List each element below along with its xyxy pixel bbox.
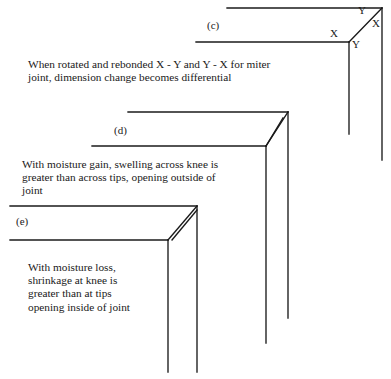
- dimension-label-y-inner-bottom: Y: [352, 38, 360, 50]
- caption-line: opening inside of joint: [28, 301, 130, 314]
- caption-line: When rotated and rebonded X - Y and Y - …: [28, 58, 270, 71]
- caption-line: joint, dimension change becomes differen…: [28, 71, 270, 84]
- panel-caption-c: When rotated and rebonded X - Y and Y - …: [28, 58, 270, 84]
- panel-label-e: (e): [16, 215, 28, 227]
- panel-caption-e: With moisture loss, shrinkage at knee is…: [28, 261, 130, 314]
- caption-line: shrinkage at knee is: [28, 274, 130, 287]
- dimension-label-y-outer-top: Y: [358, 4, 366, 16]
- caption-line: With moisture gain, swelling across knee…: [22, 158, 218, 171]
- panel-d-miter-lower: [266, 118, 283, 146]
- panel-label-c: (c): [207, 19, 219, 31]
- panel-label-d: (d): [114, 124, 127, 136]
- panel-e-miter-upper: [168, 206, 197, 240]
- caption-line: greater than at tips: [28, 287, 130, 300]
- dimension-label-x-outer-right: X: [372, 17, 380, 29]
- figure-page: (c) When rotated and rebonded X - Y and …: [0, 0, 391, 379]
- dimension-label-x-inner-left: X: [330, 27, 338, 39]
- caption-line: greater than across tips, opening outsid…: [22, 171, 218, 184]
- caption-line: With moisture loss,: [28, 261, 130, 274]
- caption-line: joint: [22, 184, 218, 197]
- panel-e-miter-lower: [172, 210, 197, 240]
- panel-caption-d: With moisture gain, swelling across knee…: [22, 158, 218, 198]
